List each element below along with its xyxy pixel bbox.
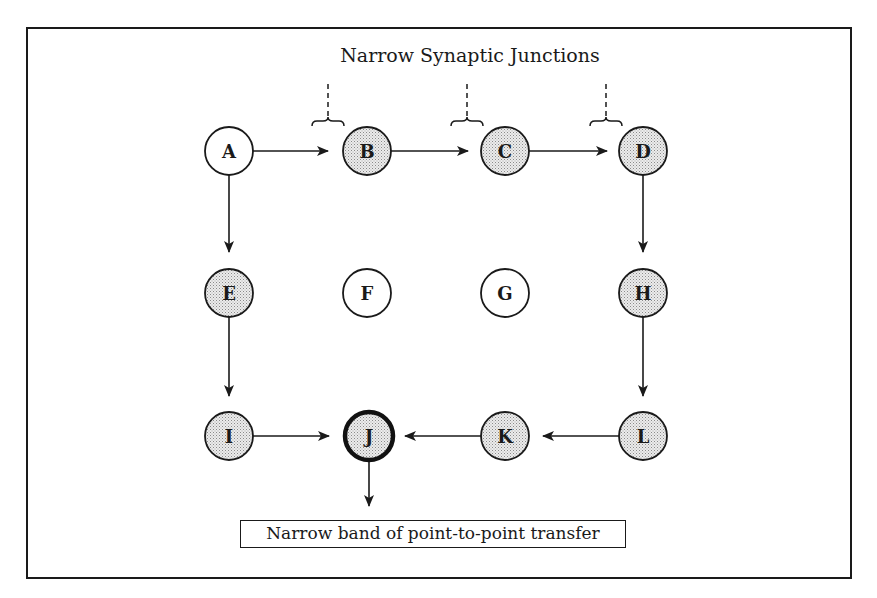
node-e-label: E bbox=[222, 283, 236, 304]
node-g-label: G bbox=[497, 283, 512, 304]
node-k: K bbox=[481, 412, 529, 460]
node-k-label: K bbox=[497, 426, 514, 447]
node-c: C bbox=[481, 127, 529, 175]
node-h-label: H bbox=[634, 283, 651, 304]
node-b: B bbox=[343, 127, 391, 175]
node-e: E bbox=[205, 269, 253, 317]
node-j: J bbox=[345, 412, 393, 460]
junction-marker-cd bbox=[590, 84, 622, 126]
node-d: D bbox=[619, 127, 667, 175]
node-b-label: B bbox=[359, 141, 374, 162]
node-a: A bbox=[205, 127, 253, 175]
junction-marker-ab bbox=[312, 84, 344, 126]
node-a-label: A bbox=[221, 141, 237, 162]
node-i: I bbox=[205, 412, 253, 460]
node-d-label: D bbox=[635, 141, 651, 162]
node-c-label: C bbox=[498, 141, 512, 162]
node-l-label: L bbox=[637, 426, 650, 447]
diagram-title: Narrow Synaptic Junctions bbox=[300, 44, 640, 66]
node-j-label: J bbox=[363, 426, 374, 447]
caption-box: Narrow band of point-to-point transfer bbox=[240, 520, 626, 548]
node-f-label: F bbox=[361, 283, 374, 304]
node-l: L bbox=[619, 412, 667, 460]
node-h: H bbox=[619, 269, 667, 317]
node-g: G bbox=[481, 269, 529, 317]
junction-marker-bc bbox=[451, 84, 483, 126]
node-i-label: I bbox=[225, 426, 233, 447]
node-f: F bbox=[343, 269, 391, 317]
synapse-network-diagram: A B C D E F G H I J K L bbox=[0, 0, 877, 598]
